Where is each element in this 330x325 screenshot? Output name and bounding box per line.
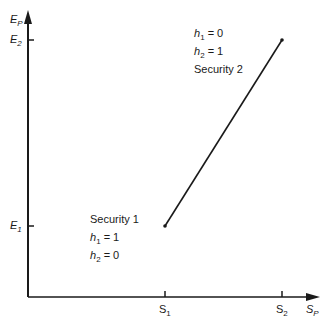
x-axis-label: SP xyxy=(306,303,319,320)
y-axis-label: EP xyxy=(10,13,23,30)
security-2-h1: h1 = 0 xyxy=(194,27,223,44)
security-2-h2: h2 = 1 xyxy=(194,45,223,62)
chart-canvas xyxy=(0,0,330,325)
e2-label: E2 xyxy=(10,33,22,50)
e1-label: E1 xyxy=(10,219,22,236)
security-1-h2: h2 = 0 xyxy=(90,249,119,266)
security-2-title: Security 2 xyxy=(194,63,243,76)
s2-label: S2 xyxy=(276,303,288,320)
y-axis-arrow-icon xyxy=(24,10,32,24)
security-1-title: Security 1 xyxy=(90,213,139,226)
security-1-point xyxy=(163,224,167,228)
s1-label: S1 xyxy=(159,303,171,320)
x-axis-arrow-icon xyxy=(306,293,320,301)
security-2-point xyxy=(280,38,284,42)
security-1-h1: h1 = 1 xyxy=(90,231,119,248)
